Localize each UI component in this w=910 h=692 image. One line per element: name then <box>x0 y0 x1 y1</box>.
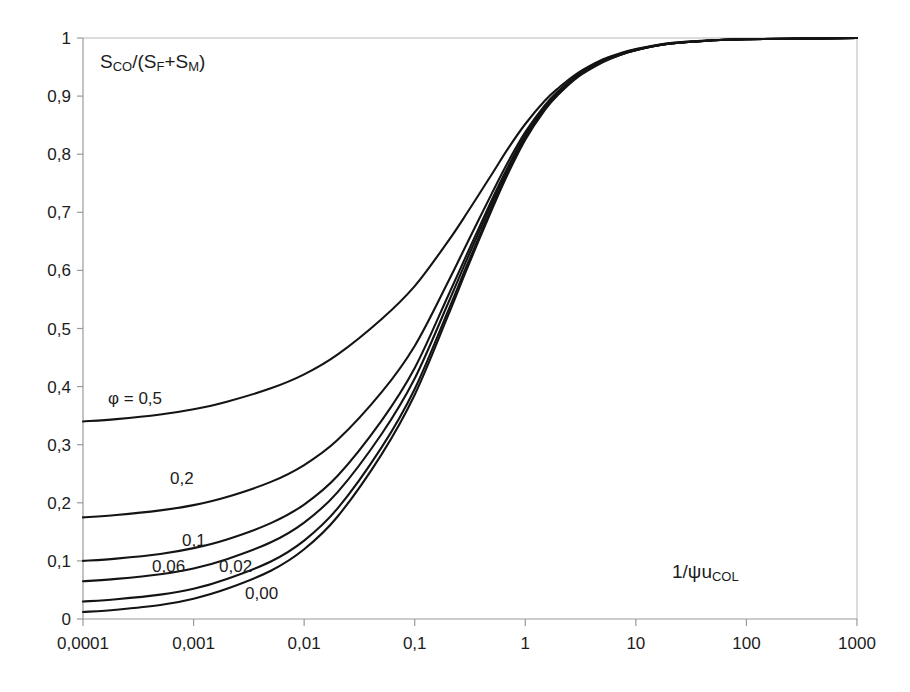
curve-label-phi-0-2: 0,2 <box>170 469 194 488</box>
x-tick-label: 1000 <box>838 634 876 653</box>
x-tick-label: 0,01 <box>288 634 321 653</box>
y-tick-label: 0,2 <box>47 494 71 513</box>
x-axis-tick-labels: 0,00010,0010,010,11101001000 <box>57 634 876 653</box>
y-axis-tick-labels: 00,10,20,30,40,50,60,70,80,91 <box>47 29 71 629</box>
x-tick-label: 0,1 <box>403 634 427 653</box>
y-tick-label: 1 <box>62 29 71 48</box>
y-axis-title-part: CO <box>113 59 133 74</box>
x-tick-label: 0,001 <box>172 634 215 653</box>
data-curve-0-1 <box>83 38 857 561</box>
y-axis-title-part: +S <box>164 51 188 72</box>
data-curve-0-06 <box>83 38 857 581</box>
x-axis-title: 1/ψuCOL <box>672 561 739 584</box>
y-tick-label: 0,4 <box>47 378 71 397</box>
curve-label-phi-0-02: 0,02 <box>219 557 252 576</box>
y-tick-label: 0,1 <box>47 552 71 571</box>
y-axis-title-part: /(S <box>132 51 156 72</box>
x-axis-title-sub: COL <box>712 569 739 584</box>
data-curve-0 <box>83 38 857 612</box>
x-axis-title-main: 1/ψu <box>672 561 712 582</box>
y-tick-label: 0,9 <box>47 87 71 106</box>
series-annotations: φ = 0,50,20,10,060,020,00 <box>108 389 278 603</box>
y-axis-ticks <box>77 38 83 619</box>
curve-label-phi-0-1: 0,1 <box>182 531 206 550</box>
y-axis-title: SCO/(SF+SM) <box>100 51 205 74</box>
y-tick-label: 0,3 <box>47 436 71 455</box>
x-tick-label: 100 <box>732 634 760 653</box>
data-series-group <box>83 38 857 612</box>
chart-canvas: 00,10,20,30,40,50,60,70,80,91 0,00010,00… <box>0 0 910 692</box>
x-tick-label: 1 <box>521 634 530 653</box>
curve-label-phi-0-00: 0,00 <box>245 584 278 603</box>
x-tick-label: 0,0001 <box>57 634 109 653</box>
y-tick-label: 0 <box>62 610 71 629</box>
x-tick-label: 10 <box>626 634 645 653</box>
y-axis-title-part: ) <box>199 51 205 72</box>
chart-figure: 00,10,20,30,40,50,60,70,80,91 0,00010,00… <box>0 0 910 692</box>
y-tick-label: 0,6 <box>47 261 71 280</box>
data-curve-0-02 <box>83 38 857 602</box>
curve-label-phi-0-06: 0,06 <box>152 557 185 576</box>
curve-label-phi-0-5: φ = 0,5 <box>108 389 162 408</box>
x-axis-ticks <box>83 619 857 626</box>
y-axis-title-part: F <box>156 59 164 74</box>
data-curve-0-2 <box>83 38 857 517</box>
data-curve-0-5 <box>83 38 857 421</box>
y-axis-title-part: M <box>188 59 199 74</box>
y-tick-label: 0,8 <box>47 145 71 164</box>
y-axis-title-part: S <box>100 51 113 72</box>
y-tick-label: 0,7 <box>47 203 71 222</box>
y-tick-label: 0,5 <box>47 320 71 339</box>
